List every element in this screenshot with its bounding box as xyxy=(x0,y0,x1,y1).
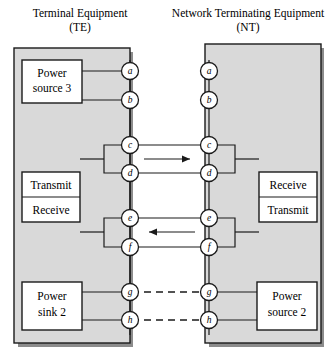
nt-contact-e: e xyxy=(201,210,218,227)
te-contact-h: h xyxy=(122,312,139,329)
te-power-source-line1: Power xyxy=(37,67,67,79)
te-transmit-receive-box: Transmit Receive xyxy=(22,172,80,222)
te-contact-e: e xyxy=(122,210,139,227)
te-contact-label-e: e xyxy=(128,213,132,223)
nt-contact-label-d: d xyxy=(207,168,212,178)
nt-contact-c: c xyxy=(201,137,218,154)
te-contact-label-h: h xyxy=(128,315,133,325)
nt-transmit-label: Transmit xyxy=(267,204,309,216)
te-contact-b: b xyxy=(122,92,139,109)
left-title: Terminal Equipment (TE) xyxy=(33,7,128,34)
nt-contact-h: h xyxy=(201,312,218,329)
te-contact-label-g: g xyxy=(128,287,133,297)
nt-contact-g: g xyxy=(201,284,218,301)
te-power-source-box: Power source 3 xyxy=(22,60,82,103)
nt-receive-label: Receive xyxy=(269,179,306,191)
te-contact-d: d xyxy=(122,165,139,182)
nt-contact-b: b xyxy=(201,92,218,109)
arrow-nt-to-te xyxy=(149,229,195,236)
left-title-line2: (TE) xyxy=(69,21,91,34)
interface-wiring-diagram: Terminal Equipment (TE) Network Terminat… xyxy=(0,0,334,361)
nt-contact-label-g: g xyxy=(207,287,212,297)
te-contact-label-d: d xyxy=(128,168,133,178)
te-contact-f: f xyxy=(122,239,139,256)
nt-power-source-line2: source 2 xyxy=(268,306,307,318)
nt-receive-transmit-box: Receive Transmit xyxy=(259,172,317,222)
right-title-line1: Network Terminating Equipment xyxy=(172,7,325,20)
te-contact-label-a: a xyxy=(128,66,133,76)
te-power-sink-box: Power sink 2 xyxy=(22,282,82,330)
nt-contact-label-a: a xyxy=(207,66,212,76)
nt-contact-label-b: b xyxy=(207,95,212,105)
te-receive-label: Receive xyxy=(32,204,69,216)
te-power-sink-line2: sink 2 xyxy=(38,306,66,318)
te-transmit-label: Transmit xyxy=(30,179,72,191)
nt-contact-f: f xyxy=(201,239,218,256)
nt-contact-a: a xyxy=(201,63,218,80)
te-contact-a: a xyxy=(122,63,139,80)
te-contact-c: c xyxy=(122,137,139,154)
te-power-sink-line1: Power xyxy=(37,290,67,302)
nt-contact-label-h: h xyxy=(207,315,212,325)
nt-contact-label-e: e xyxy=(207,213,211,223)
te-contact-g: g xyxy=(122,284,139,301)
left-title-line1: Terminal Equipment xyxy=(33,7,128,20)
te-power-source-line2: source 3 xyxy=(33,82,72,94)
te-contact-label-b: b xyxy=(128,95,133,105)
nt-power-source-line1: Power xyxy=(272,290,302,302)
right-title: Network Terminating Equipment (NT) xyxy=(172,7,325,34)
arrow-te-to-nt xyxy=(144,156,190,163)
nt-contact-d: d xyxy=(201,165,218,182)
nt-power-source-box: Power source 2 xyxy=(257,282,317,330)
right-title-line2: (NT) xyxy=(237,21,260,34)
